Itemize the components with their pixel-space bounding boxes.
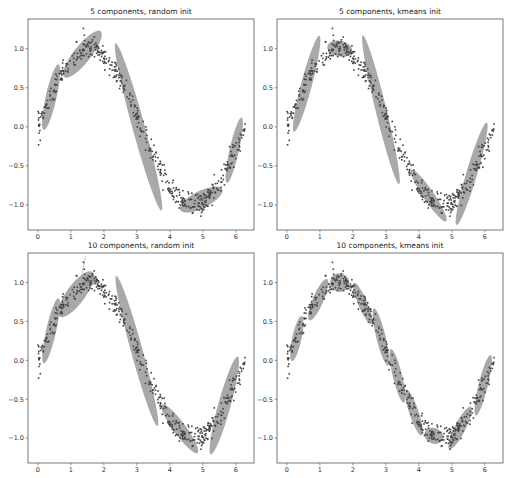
data-point: [177, 434, 179, 436]
data-point: [50, 333, 52, 335]
data-point: [338, 282, 340, 284]
data-point: [423, 423, 425, 425]
data-point: [354, 285, 356, 287]
data-point: [104, 303, 106, 305]
x-tick-label: 0: [285, 233, 289, 241]
data-point: [487, 149, 489, 151]
data-point: [383, 105, 385, 107]
data-point: [94, 290, 96, 292]
data-point: [105, 285, 107, 287]
data-point: [385, 347, 387, 349]
data-point: [80, 55, 82, 57]
data-point: [184, 203, 186, 205]
data-point: [332, 48, 334, 50]
data-point: [101, 286, 103, 288]
data-point: [172, 180, 174, 182]
data-point: [368, 88, 370, 90]
data-point: [160, 408, 162, 410]
data-point: [60, 72, 62, 74]
data-point: [195, 428, 197, 430]
data-point: [354, 296, 356, 298]
data-point: [471, 175, 473, 177]
data-point: [437, 432, 439, 434]
data-point: [130, 101, 132, 103]
data-point: [353, 69, 355, 71]
data-point: [338, 48, 340, 50]
data-point: [364, 299, 366, 301]
data-point: [348, 59, 350, 61]
data-point: [129, 93, 131, 95]
data-point: [471, 408, 473, 410]
data-point: [421, 182, 423, 184]
data-point: [440, 192, 442, 194]
data-point: [469, 187, 471, 189]
data-point: [155, 160, 157, 162]
data-point: [203, 206, 205, 208]
subplot-title: 5 components, random init: [90, 7, 192, 16]
data-point: [222, 179, 224, 181]
data-point: [303, 84, 305, 86]
data-point: [360, 61, 362, 63]
data-point: [388, 369, 390, 371]
data-point: [66, 297, 68, 299]
data-point: [146, 129, 148, 131]
data-point: [146, 368, 148, 370]
data-point: [151, 151, 153, 153]
data-point: [341, 273, 343, 275]
data-point: [483, 378, 485, 380]
data-point: [370, 311, 372, 313]
data-point: [61, 79, 63, 81]
data-point: [350, 50, 352, 52]
data-point: [62, 67, 64, 69]
data-point: [344, 42, 346, 44]
data-point: [45, 340, 47, 342]
data-point: [431, 203, 433, 205]
data-point: [232, 380, 234, 382]
data-point: [416, 414, 418, 416]
data-point: [291, 112, 293, 114]
data-point: [194, 433, 196, 435]
data-point: [217, 416, 219, 418]
data-point: [428, 437, 430, 439]
data-point: [101, 289, 103, 291]
data-point: [397, 384, 399, 386]
data-point: [307, 73, 309, 75]
data-point: [352, 57, 354, 59]
data-point: [367, 77, 369, 79]
data-point: [196, 209, 198, 211]
data-point: [328, 283, 330, 285]
data-point: [226, 403, 228, 405]
data-point: [91, 54, 93, 56]
data-point: [222, 408, 224, 410]
x-tick-label: 4: [417, 466, 421, 474]
data-point: [94, 283, 96, 285]
data-point: [157, 402, 159, 404]
data-point: [286, 111, 288, 113]
data-point: [475, 403, 477, 405]
data-point: [420, 191, 422, 193]
data-point: [486, 149, 488, 151]
data-point: [301, 331, 303, 333]
data-point: [420, 424, 422, 426]
data-point: [492, 362, 494, 364]
data-point: [448, 432, 450, 434]
data-point: [432, 438, 434, 440]
data-point: [148, 384, 150, 386]
data-point: [360, 69, 362, 71]
data-point: [364, 66, 366, 68]
x-tick-label: 5: [450, 233, 454, 241]
subplot-10-kmeans: 10 components, kmeans init 01234561.00.5…: [257, 241, 503, 474]
data-point: [132, 99, 134, 101]
data-point: [398, 381, 400, 383]
data-point: [355, 58, 357, 60]
data-point: [201, 432, 203, 434]
data-point: [481, 377, 483, 379]
data-point: [303, 98, 305, 100]
data-point: [133, 345, 135, 347]
data-point: [188, 193, 190, 195]
subplot-title: 10 components, kmeans init: [337, 241, 444, 250]
data-point: [493, 123, 495, 125]
data-point: [235, 142, 237, 144]
data-point: [385, 126, 387, 128]
x-tick-label: 6: [234, 233, 238, 241]
